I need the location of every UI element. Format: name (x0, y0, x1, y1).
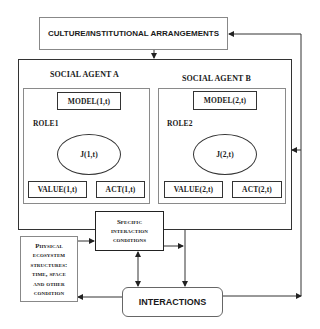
act-2-box: ACT(2,t) (232, 181, 282, 198)
interactions-label: INTERACTIONS (139, 297, 207, 307)
model-2-label: MODEL(2,t) (204, 96, 246, 105)
role1-label: ROLE1 (33, 119, 59, 128)
agent-a-title: SOCIAL AGENT A (50, 70, 119, 79)
physical-line-6: condition (34, 288, 64, 298)
physical-line-3: structures: (31, 260, 68, 270)
judgement-2-ellipse: J(2,t) (193, 134, 257, 175)
act-1-box: ACT(1,t) (96, 181, 145, 198)
culture-institutional-box: CULTURE/INSTITUTIONAL ARRANGEMENTS (39, 17, 228, 50)
value-2-label: VALUE(2,t) (174, 185, 213, 194)
value-1-box: VALUE(1,t) (28, 181, 87, 198)
specific-line-2: interaction (111, 227, 148, 236)
judgement-1-label: J(1,t) (80, 150, 97, 159)
judgement-1-ellipse: J(1,t) (57, 134, 121, 175)
value-2-box: VALUE(2,t) (164, 181, 223, 198)
interactions-box: INTERACTIONS (122, 287, 223, 317)
model-1-label: MODEL(1,t) (68, 97, 110, 106)
physical-line-4: time, space (32, 269, 66, 279)
value-1-label: VALUE(1,t) (38, 185, 77, 194)
physical-ecosystem-box: Physical ecosystem structures: time, spa… (20, 236, 78, 302)
specific-line-1: Specific (117, 218, 142, 227)
physical-line-2: ecosystem (33, 250, 65, 260)
model-2-box: MODEL(2,t) (193, 91, 257, 110)
culture-label: CULTURE/INSTITUTIONAL ARRANGEMENTS (48, 29, 219, 38)
specific-interaction-conditions-box: Specific interaction conditions (95, 211, 164, 251)
physical-line-5: and other (33, 279, 65, 289)
act-1-label: ACT(1,t) (106, 185, 136, 194)
act-2-label: ACT(2,t) (242, 185, 272, 194)
judgement-2-label: J(2,t) (216, 150, 233, 159)
specific-line-3: conditions (113, 236, 146, 245)
model-1-box: MODEL(1,t) (57, 92, 121, 110)
agent-b-title: SOCIAL AGENT B (182, 74, 251, 83)
role2-label: ROLE2 (167, 119, 193, 128)
physical-line-1: Physical (35, 241, 63, 251)
